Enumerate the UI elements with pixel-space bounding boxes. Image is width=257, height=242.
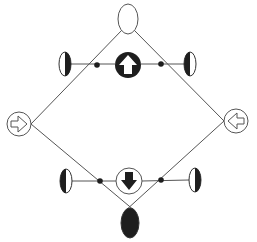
left-arrow-outline-icon xyxy=(224,109,248,133)
dot-top-right-icon xyxy=(158,61,164,67)
half-moon-bottom-right-icon xyxy=(189,168,201,192)
top-ellipse-icon xyxy=(118,4,138,34)
connector-bottom-right xyxy=(142,180,189,181)
diagram-canvas xyxy=(0,0,257,242)
half-moon-top-left-icon xyxy=(59,52,71,76)
dot-top-left-icon xyxy=(94,62,100,68)
down-arrow-icon xyxy=(116,168,142,194)
up-arrow-icon xyxy=(115,52,141,78)
edge-top-right xyxy=(134,30,224,121)
right-arrow-outline-icon xyxy=(7,112,31,136)
half-moon-bottom-left-icon xyxy=(60,169,72,193)
half-moon-top-right-icon xyxy=(184,52,196,76)
dot-bottom-right-icon xyxy=(158,177,164,183)
edge-bottom-right xyxy=(125,121,224,211)
dot-bottom-left-icon xyxy=(97,178,103,184)
edge-top-left xyxy=(31,30,122,124)
diamond-symbol-diagram xyxy=(0,0,257,242)
bottom-ellipse-icon xyxy=(121,208,139,238)
junction-dots xyxy=(94,61,164,184)
edge-bottom-left xyxy=(31,124,135,211)
